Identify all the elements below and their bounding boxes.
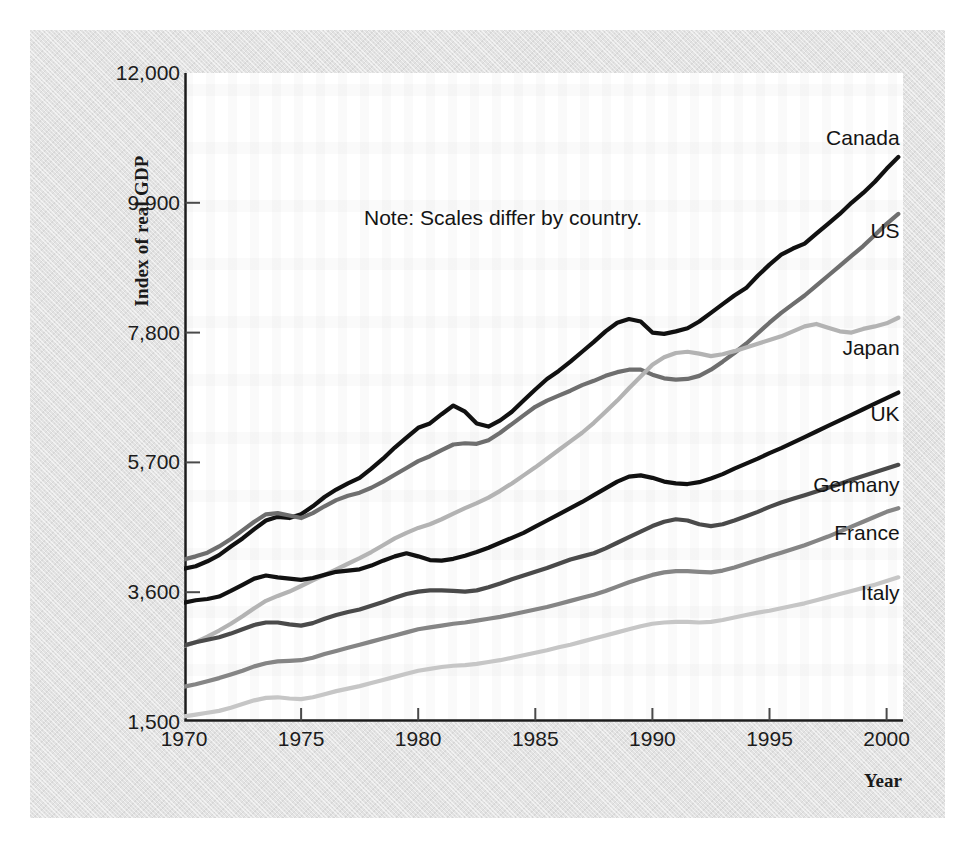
series-label-us: US [870, 219, 899, 243]
series-label-italy: Italy [861, 581, 900, 605]
chart-note: Note: Scales differ by country. [364, 206, 642, 230]
series-label-japan: Japan [842, 336, 899, 360]
figure-panel: Index of real GDP Year 1,5003,6005,7007,… [30, 30, 945, 818]
series-line-japan [184, 318, 898, 646]
y-tick-label: 5,700 [60, 450, 180, 474]
x-tick-label: 1985 [475, 727, 595, 751]
y-tick-label: 3,600 [60, 580, 180, 604]
series-label-canada: Canada [826, 126, 900, 150]
series-label-germany: Germany [813, 473, 899, 497]
series-line-italy [184, 577, 898, 716]
line-chart-svg [184, 73, 903, 722]
series-line-germany [184, 465, 898, 645]
x-tick-label: 1970 [124, 727, 244, 751]
x-tick-label: 1995 [710, 727, 830, 751]
x-tick-label: 1975 [241, 727, 361, 751]
y-tick-label: 7,800 [60, 321, 180, 345]
x-tick-label: 1990 [592, 727, 712, 751]
series-label-uk: UK [870, 402, 899, 426]
y-axis-tick-labels: 1,5003,6005,7007,8009,90012,000 [55, 30, 180, 818]
x-tick-label: 1980 [358, 727, 478, 751]
y-tick-label: 9,900 [60, 191, 180, 215]
plot-area [184, 73, 903, 722]
x-axis-title: Year [864, 770, 902, 792]
x-tick-label: 2000 [827, 727, 947, 751]
y-tick-label: 12,000 [60, 61, 180, 85]
series-label-france: France [834, 521, 899, 545]
series-line-france [184, 508, 898, 687]
